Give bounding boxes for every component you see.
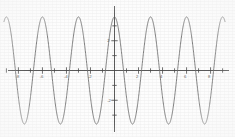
x-tick-label: -4 [64, 74, 68, 79]
x-tick-label: 6 [184, 74, 186, 79]
x-tick-label: 8 [208, 74, 210, 79]
x-tick-label: -2 [88, 74, 92, 79]
plot-canvas [0, 0, 235, 137]
x-tick-label: 4 [160, 74, 162, 79]
x-tick-label: 2 [136, 74, 138, 79]
x-tick-label: -6 [40, 74, 44, 79]
graph-figure: -8-6-4-224682-2 [0, 0, 235, 137]
x-tick-label: -8 [16, 74, 20, 79]
y-tick-label: -2 [107, 98, 111, 103]
y-tick-label: 2 [107, 38, 109, 43]
